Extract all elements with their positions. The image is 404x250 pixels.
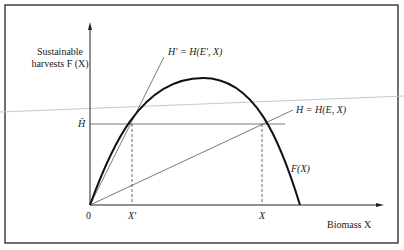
x-label: X <box>258 210 266 221</box>
h-prime-line-label: H′ = H(E′, X) <box>167 46 223 58</box>
curve-label: F(X) <box>290 163 311 175</box>
x-axis-arrow-icon <box>376 203 384 207</box>
harvest-diagram: Sustainable harvests F (X) H′ = H(E′, X)… <box>0 0 404 250</box>
h-line-label: H = H(E, X) <box>295 104 347 116</box>
hbar-label: H̄ <box>77 118 86 129</box>
x-prime-label: X′ <box>127 210 137 221</box>
x-axis-label: Biomass X <box>327 219 372 230</box>
y-axis-label-line1: Sustainable <box>37 46 84 57</box>
y-axis-arrow-icon <box>88 22 92 30</box>
y-axis-label-line2: harvests F (X) <box>31 58 88 70</box>
origin-label: 0 <box>86 210 91 221</box>
h-prime-line <box>90 57 164 205</box>
